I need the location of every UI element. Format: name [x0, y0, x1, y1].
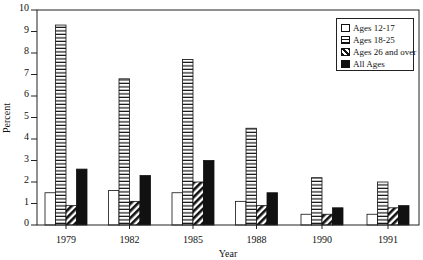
legend-item-all-ages: All Ages — [341, 58, 413, 70]
legend: Ages 12-17 Ages 18-25 Ages 26 and over A… — [336, 18, 414, 71]
bar-all-ages — [399, 206, 410, 225]
legend-label: Ages 18-25 — [353, 35, 395, 45]
bar-ages-12-17 — [172, 193, 183, 225]
black-swatch-icon — [341, 60, 350, 68]
bar-ages-26-over — [66, 206, 77, 225]
bar-all-ages — [267, 193, 278, 225]
legend-label: Ages 12-17 — [353, 23, 395, 33]
legend-label: Ages 26 and over — [353, 47, 416, 57]
y-tick-label: 6 — [24, 88, 29, 99]
x-tick-label: 1982 — [120, 234, 140, 245]
bar-ages-26-over — [322, 214, 333, 225]
x-axis: 197919821985198819901991 — [56, 225, 398, 245]
x-tick-label: 1985 — [183, 234, 203, 245]
y-tick-label: 10 — [19, 2, 29, 13]
y-tick-label: 3 — [24, 153, 29, 164]
bar-ages-26-over — [257, 206, 268, 225]
legend-label: All Ages — [353, 59, 385, 69]
bar-ages-18-25 — [56, 25, 67, 225]
bar-ages-12-17 — [45, 193, 56, 225]
hatched-swatch-icon — [341, 48, 350, 56]
bar-ages-18-25 — [378, 182, 389, 225]
bar-all-ages — [333, 208, 344, 225]
bar-ages-18-25 — [119, 79, 130, 225]
bar-ages-26-over — [130, 201, 141, 225]
bar-ages-18-25 — [183, 59, 194, 225]
legend-item-ages-12-17: Ages 12-17 — [341, 22, 413, 34]
bar-ages-26-over — [193, 182, 204, 225]
y-tick-label: 9 — [24, 24, 29, 35]
legend-item-ages-18-25: Ages 18-25 — [341, 34, 413, 46]
white-swatch-icon — [341, 24, 350, 32]
y-tick-label: 7 — [24, 67, 29, 78]
bar-ages-12-17 — [236, 201, 247, 225]
bar-all-ages — [140, 176, 151, 225]
y-axis: 012345678910 — [19, 2, 37, 228]
bar-ages-12-17 — [301, 214, 312, 225]
y-tick-label: 0 — [24, 217, 29, 228]
bar-ages-12-17 — [109, 191, 120, 225]
y-tick-label: 5 — [24, 110, 29, 121]
bar-ages-18-25 — [312, 178, 323, 225]
y-tick-label: 2 — [24, 174, 29, 185]
x-tick-label: 1988 — [247, 234, 267, 245]
bar-all-ages — [77, 169, 88, 225]
x-tick-label: 1990 — [312, 234, 332, 245]
x-tick-label: 1979 — [56, 234, 76, 245]
bar-ages-26-over — [388, 208, 399, 225]
x-tick-label: 1991 — [378, 234, 398, 245]
bar-ages-18-25 — [246, 128, 257, 225]
legend-item-ages-26-over: Ages 26 and over — [341, 46, 413, 58]
bar-ages-12-17 — [367, 214, 378, 225]
y-tick-label: 8 — [24, 45, 29, 56]
bar-all-ages — [204, 161, 215, 226]
y-tick-label: 1 — [24, 196, 29, 207]
x-axis-label: Year — [219, 248, 238, 259]
y-tick-label: 4 — [24, 131, 29, 142]
striped-swatch-icon — [341, 36, 350, 44]
y-axis-label: Percent — [1, 103, 12, 133]
